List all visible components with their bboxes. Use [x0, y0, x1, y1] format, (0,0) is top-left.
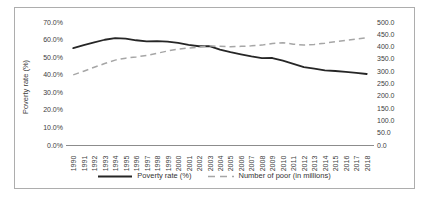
x-axis-tick-label-2010: 2010 [278, 147, 287, 181]
x-axis-tick-label-2015: 2015 [331, 147, 340, 181]
right-axis-tick-label: 300.0 [377, 67, 415, 76]
x-axis-tick-label-2008: 2008 [257, 147, 266, 181]
plot-area [68, 22, 372, 145]
x-axis-tick-label-2016: 2016 [341, 147, 350, 181]
right-axis-tick-label: 50.0 [377, 128, 415, 137]
x-axis-tick-label-1995: 1995 [121, 147, 130, 181]
left-axis-tick-label: 50.0% [15, 53, 63, 62]
right-axis-tick-label: 250.0 [377, 79, 415, 88]
x-axis-tick-label-2012: 2012 [299, 147, 308, 181]
chart-figure: Poverty rate (%) Poverty rate (%)Number … [14, 7, 415, 189]
x-axis-tick-label-1994: 1994 [111, 147, 120, 181]
x-axis-tick-label-2004: 2004 [216, 147, 225, 181]
left-axis-tick-label: 10.0% [15, 123, 63, 132]
left-axis-tick-label: 70.0% [15, 18, 63, 27]
x-axis-tick-label-1998: 1998 [153, 147, 162, 181]
right-axis-tick-label: 150.0 [377, 104, 415, 113]
x-axis-tick-label-2002: 2002 [195, 147, 204, 181]
x-axis-tick-label-2017: 2017 [352, 147, 361, 181]
x-axis-tick-label-1992: 1992 [90, 147, 99, 181]
x-axis-tick-label-2013: 2013 [310, 147, 319, 181]
x-axis-tick-label-2000: 2000 [174, 147, 183, 181]
x-axis-tick-label-1997: 1997 [142, 147, 151, 181]
x-axis-tick-label-2006: 2006 [236, 147, 245, 181]
left-axis-tick-label: 60.0% [15, 35, 63, 44]
x-axis-tick-label-2009: 2009 [268, 147, 277, 181]
left-axis-tick-label: 30.0% [15, 88, 63, 97]
x-axis-tick-label-2011: 2011 [289, 147, 298, 181]
right-axis-tick-label: 450.0 [377, 30, 415, 39]
right-axis-tick-label: 0.0 [377, 141, 415, 150]
x-axis-tick-label-2005: 2005 [226, 147, 235, 181]
left-axis-tick-label: 20.0% [15, 105, 63, 114]
right-axis-tick-label: 500.0 [377, 18, 415, 27]
x-axis-tick-label-2014: 2014 [320, 147, 329, 181]
right-axis-tick-label: 100.0 [377, 116, 415, 125]
left-axis-tick-label: 40.0% [15, 70, 63, 79]
right-axis-tick-label: 350.0 [377, 54, 415, 63]
x-axis-tick-label-2007: 2007 [247, 147, 256, 181]
right-axis-tick-label: 400.0 [377, 42, 415, 51]
right-axis-tick-label: 200.0 [377, 91, 415, 100]
x-axis-tick-label-1999: 1999 [163, 147, 172, 181]
x-axis-tick-label-1993: 1993 [100, 147, 109, 181]
left-axis-tick-label: 0.0% [15, 141, 63, 150]
x-axis-tick-label-1996: 1996 [132, 147, 141, 181]
x-axis-tick-label-2001: 2001 [184, 147, 193, 181]
x-axis-tick-label-1990: 1990 [69, 147, 78, 181]
x-axis-tick-label-2018: 2018 [362, 147, 371, 181]
x-axis-tick-label-1991: 1991 [79, 147, 88, 181]
x-axis-tick-label-2003: 2003 [205, 147, 214, 181]
